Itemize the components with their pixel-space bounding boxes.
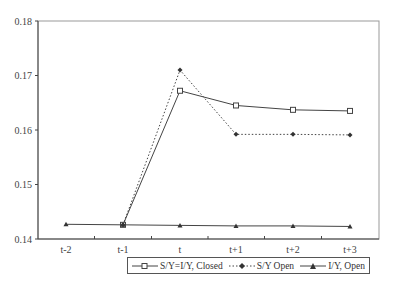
legend-item-iy-open: I/Y, Open <box>300 261 365 271</box>
x-tick-label: t <box>179 244 182 255</box>
legend-label: S/Y Open <box>257 261 294 271</box>
x-tick-label: t+2 <box>286 244 299 255</box>
legend-label: I/Y, Open <box>328 261 365 271</box>
y-tick-label: 0.18 <box>15 16 33 27</box>
legend-item-closed: S/Y=I/Y, Closed <box>132 261 223 271</box>
y-tick-label: 0.16 <box>15 125 33 136</box>
series-i-y-open <box>64 222 353 229</box>
series-s-y-open <box>121 68 353 228</box>
open-square-marker-icon <box>132 262 158 270</box>
y-tick-label: 0.17 <box>15 70 33 81</box>
legend-label: S/Y=I/Y, Closed <box>160 261 223 271</box>
chart-legend: S/Y=I/Y, Closed S/Y Open I/Y, Open <box>127 257 370 274</box>
legend-item-sy-open: S/Y Open <box>229 261 294 271</box>
y-tick-label: 0.15 <box>15 179 33 190</box>
x-tick-label: t-1 <box>117 244 128 255</box>
line-chart: 0.140.150.160.170.18 t-2t-1tt+1t+2t+3 <box>0 0 397 286</box>
x-tick-label: t+3 <box>343 244 356 255</box>
triangle-marker-icon <box>300 262 326 270</box>
y-tick-label: 0.14 <box>15 234 33 245</box>
x-tick-label: t-2 <box>60 244 71 255</box>
series-s-y-i-y-closed <box>121 88 353 227</box>
series-layer <box>64 68 353 229</box>
plot-frame <box>38 21 379 239</box>
x-tick-label: t+1 <box>229 244 242 255</box>
diamond-marker-icon <box>229 262 255 270</box>
y-axis-ticks: 0.140.150.160.170.18 <box>15 16 39 245</box>
